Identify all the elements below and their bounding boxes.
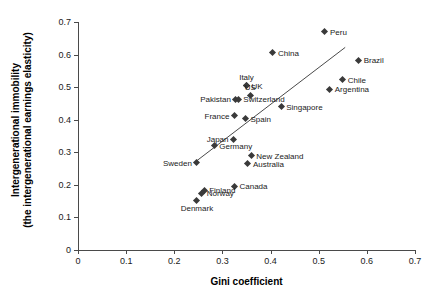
- data-point-label: Singapore: [286, 102, 322, 111]
- data-point-marker[interactable]: [269, 49, 276, 56]
- data-point-marker[interactable]: [321, 28, 328, 35]
- x-axis-title: Gini coefficient: [78, 276, 415, 287]
- y-tick-label: 0.4: [58, 115, 71, 125]
- data-point-marker[interactable]: [326, 86, 333, 93]
- data-point-label: Peru: [330, 27, 347, 36]
- data-point-marker[interactable]: [278, 103, 285, 110]
- x-tick-mark: [222, 250, 223, 254]
- data-point-label: Germany: [219, 141, 252, 150]
- y-tick-label: 0.3: [58, 147, 71, 157]
- scatter-chart-figure: 00.10.20.30.40.50.60.7 00.10.20.30.40.50…: [0, 0, 433, 298]
- y-tick-label: 0.2: [58, 180, 71, 190]
- x-tick-label: 0.2: [168, 256, 181, 266]
- y-tick-mark: [74, 152, 78, 153]
- x-tick-mark: [126, 250, 127, 254]
- y-tick-label: 0: [66, 245, 71, 255]
- y-tick-mark: [74, 120, 78, 121]
- y-tick-label: 0.7: [58, 17, 71, 27]
- data-point-marker[interactable]: [248, 152, 255, 159]
- data-point-label: Australia: [253, 159, 284, 168]
- data-point-marker[interactable]: [193, 197, 200, 204]
- y-tick-mark: [74, 22, 78, 23]
- x-tick-label: 0.6: [361, 256, 374, 266]
- data-point-label: Sweden: [163, 158, 192, 167]
- y-tick-mark: [74, 55, 78, 56]
- data-point-marker[interactable]: [355, 57, 362, 64]
- x-tick-mark: [415, 250, 416, 254]
- x-tick-mark: [271, 250, 272, 254]
- data-point-marker[interactable]: [242, 115, 249, 122]
- data-point-label: Pakistan: [200, 95, 231, 104]
- x-tick-mark: [367, 250, 368, 254]
- y-tick-mark: [74, 87, 78, 88]
- x-tick-mark: [319, 250, 320, 254]
- y-tick-label: 0.5: [58, 82, 71, 92]
- data-point-label: Canada: [239, 182, 267, 191]
- y-tick-label: 0.6: [58, 50, 71, 60]
- x-tick-mark: [174, 250, 175, 254]
- data-point-label: China: [278, 48, 299, 57]
- x-tick-label: 0.1: [120, 256, 133, 266]
- y-axis-title: Intergenerational immobility (the interg…: [10, 10, 34, 250]
- data-point-label: Switzerland: [243, 95, 284, 104]
- data-point-marker[interactable]: [244, 160, 251, 167]
- x-tick-label: 0.4: [264, 256, 277, 266]
- y-tick-mark: [74, 250, 78, 251]
- data-point-marker[interactable]: [211, 142, 218, 149]
- data-point-label: US: [245, 83, 256, 92]
- data-point-marker[interactable]: [339, 76, 346, 83]
- x-axis-line: [78, 250, 415, 251]
- y-axis-title-line-2: (the intergenerational earnings elastici…: [22, 10, 34, 250]
- data-point-label: Denmark: [181, 204, 213, 213]
- data-point-marker[interactable]: [193, 159, 200, 166]
- y-axis-title-line-1: Intergenerational immobility: [10, 10, 22, 250]
- data-point-label: France: [205, 111, 230, 120]
- x-tick-label: 0.5: [312, 256, 325, 266]
- x-tick-label: 0: [75, 256, 80, 266]
- data-point-label: Brazil: [364, 56, 384, 65]
- y-tick-label: 0.1: [58, 212, 71, 222]
- data-point-marker[interactable]: [231, 112, 238, 119]
- data-point-label: Chile: [348, 75, 366, 84]
- data-point-label: Argentina: [335, 85, 369, 94]
- x-tick-mark: [78, 250, 79, 254]
- y-tick-mark: [74, 185, 78, 186]
- data-point-label: Spain: [251, 114, 271, 123]
- x-tick-label: 0.3: [216, 256, 229, 266]
- y-axis-line: [78, 22, 79, 250]
- y-tick-mark: [74, 217, 78, 218]
- data-point-label: Norway: [207, 189, 234, 198]
- x-tick-label: 0.7: [409, 256, 422, 266]
